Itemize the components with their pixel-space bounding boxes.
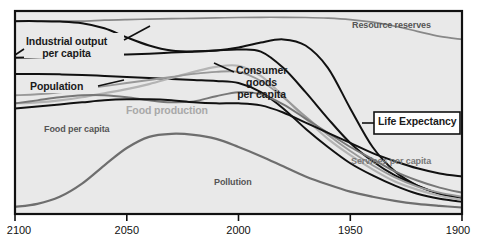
limits-to-growth-chart: Industrial output per capita Population … <box>0 0 483 246</box>
annotation-food-per-capita: Food per capita <box>44 124 110 134</box>
annotation-industrial-output-per-capita: Industrial output per capita <box>26 36 107 60</box>
x-tick-label-2000: 2000 <box>226 224 250 236</box>
x-tick-label-1900: 1900 <box>446 224 470 236</box>
annotation-industrial-output-line2: per capita <box>42 47 91 59</box>
annotation-consumer-goods-line1: Consumer <box>236 64 287 76</box>
annotation-pollution: Pollution <box>214 177 252 187</box>
annotation-population: Population <box>30 81 83 93</box>
x-tick-label-2050: 2050 <box>115 224 139 236</box>
annotation-life-expectancy: Life Expectancy <box>378 116 456 128</box>
x-tick-label-1950: 1950 <box>338 224 362 236</box>
annotation-industrial-output-line1: Industrial output <box>26 35 107 47</box>
annotation-food-production: Food production <box>126 105 208 117</box>
annotation-consumer-goods-line2: goods <box>246 76 277 88</box>
x-tick-label-2100: 2100 <box>7 224 31 236</box>
chart-screenshot: Industrial output per capita Population … <box>0 0 483 246</box>
annotation-services-per-capita: Services per capita <box>351 156 431 166</box>
annotation-consumer-goods-per-capita: Consumer goods per capita <box>236 64 287 100</box>
annotation-consumer-goods-line3: per capita <box>237 88 286 100</box>
annotation-resource-reserves: Resource reserves <box>352 20 431 30</box>
